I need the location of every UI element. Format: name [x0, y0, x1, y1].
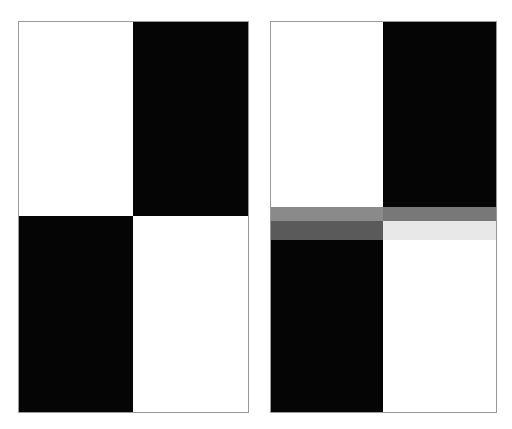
gray-band-lower-right-segment — [383, 221, 496, 240]
quadrant-bottom-left — [19, 216, 133, 412]
gray-band-upper-right-segment — [383, 207, 496, 221]
quadrant-top-left — [271, 22, 383, 208]
gray-band-row-lower — [271, 221, 496, 240]
quadrant-top-left — [19, 22, 133, 216]
gray-band-row-upper — [271, 207, 496, 221]
quadrant-top-right — [383, 22, 496, 208]
panel-reference-checkerboard — [18, 21, 249, 413]
quadrant-bottom-right — [133, 216, 248, 412]
horizontal-gray-band-overlay — [271, 207, 496, 240]
panel-checkerboard-with-gray-band — [270, 21, 497, 413]
gray-band-lower-left-segment — [271, 221, 383, 240]
illusion-figure — [0, 0, 512, 429]
gray-band-upper-left-segment — [271, 207, 383, 221]
quadrant-top-right — [133, 22, 248, 216]
